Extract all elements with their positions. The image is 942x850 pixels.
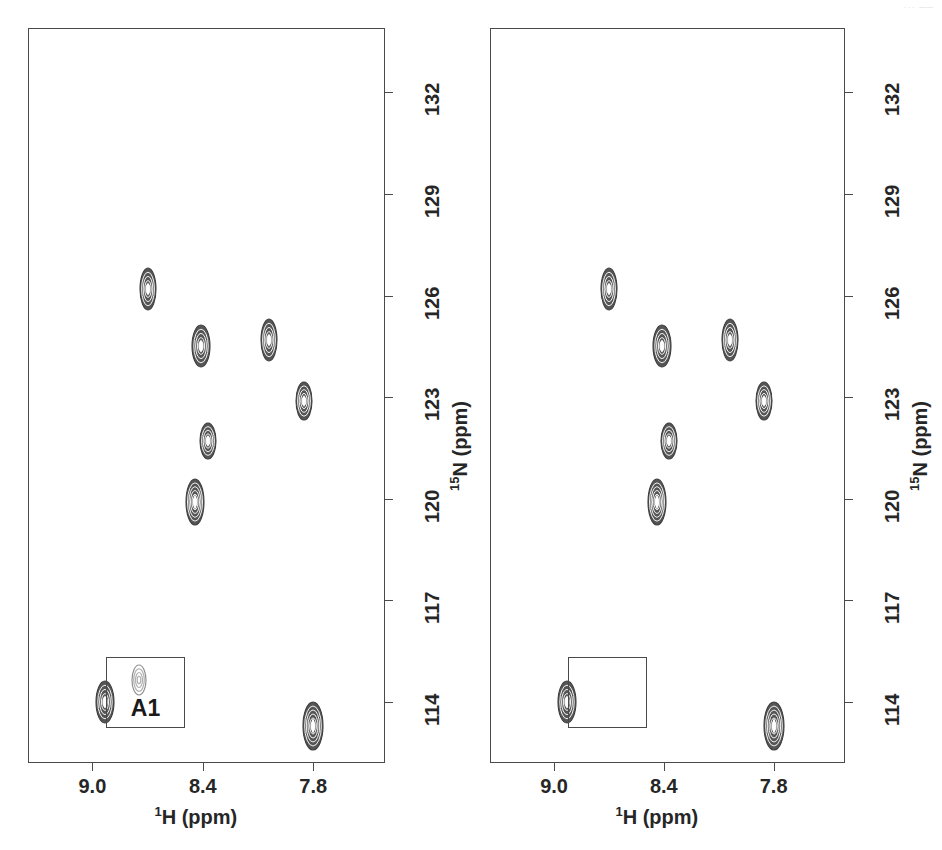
y-axis-title: 15N (ppm) (907, 401, 932, 491)
x-axis-tick (313, 763, 314, 771)
y-axis-tick (385, 702, 393, 703)
y-axis-tick-label: 132 (881, 83, 904, 116)
y-axis-tick (845, 702, 853, 703)
y-axis-superscript: 15 (907, 477, 922, 491)
x-axis-tick-label: 9.0 (79, 775, 107, 798)
x-axis-tick-label: 8.4 (189, 775, 217, 798)
x-axis-superscript: 1 (154, 804, 161, 819)
y-axis-title: 15N (ppm) (447, 401, 472, 491)
x-axis-title: 1H (ppm) (615, 804, 698, 829)
x-axis-tick (92, 763, 93, 771)
y-axis-tick-label: 126 (421, 286, 444, 319)
y-axis-tick (845, 194, 853, 195)
x-axis-tick (664, 763, 665, 771)
y-axis-tick (845, 499, 853, 500)
y-axis-tick (845, 92, 853, 93)
x-axis-tick (554, 763, 555, 771)
x-axis-tick (774, 763, 775, 771)
scan-artifact: ··· ── (904, 2, 934, 12)
y-axis-tick-label: 114 (421, 694, 444, 726)
x-axis-tick-label: 7.8 (760, 775, 788, 798)
y-axis-tick-label: 120 (421, 489, 444, 522)
x-axis-tick-label: 8.4 (650, 775, 678, 798)
y-axis-tick (845, 397, 853, 398)
y-axis-tick (385, 499, 393, 500)
y-axis-tick (385, 296, 393, 297)
x-axis-title: 1H (ppm) (154, 804, 237, 829)
plot-frame-left (28, 28, 385, 763)
y-axis-superscript: 15 (447, 477, 462, 491)
y-axis-tick (845, 600, 853, 601)
y-axis-tick-label: 129 (881, 185, 904, 218)
y-axis-tick-label: 132 (421, 83, 444, 116)
y-axis-tick-label: 126 (881, 286, 904, 319)
y-axis-tick (385, 397, 393, 398)
inset-box-right (568, 657, 647, 728)
y-axis-tick-label: 120 (881, 489, 904, 522)
x-axis-tick-label: 9.0 (540, 775, 568, 798)
y-axis-tick-label: 117 (421, 592, 444, 624)
y-axis-tick (385, 92, 393, 93)
y-axis-tick (845, 296, 853, 297)
x-axis-superscript: 1 (615, 804, 622, 819)
inset-label-left: A1 (131, 695, 160, 722)
y-axis-tick (385, 194, 393, 195)
y-axis-tick-label: 117 (881, 592, 904, 624)
y-axis-tick-label: 123 (421, 388, 444, 421)
nmr-figure: ··· ── 11411712012312612913215N (ppm)9.0… (0, 0, 942, 850)
plot-frame-right (490, 28, 845, 763)
y-axis-tick-label: 129 (421, 185, 444, 218)
x-axis-tick (203, 763, 204, 771)
y-axis-tick-label: 123 (881, 388, 904, 421)
y-axis-tick-label: 114 (881, 694, 904, 726)
x-axis-tick-label: 7.8 (299, 775, 327, 798)
y-axis-tick (385, 600, 393, 601)
